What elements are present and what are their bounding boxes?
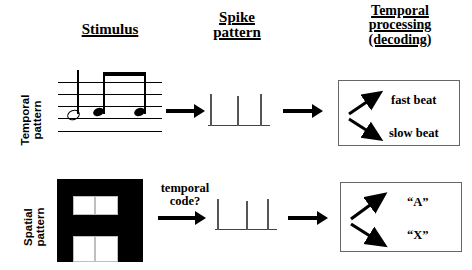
heading-temporal-line-3: (decoding) [330, 33, 470, 47]
caption-temporal-code-line-2: code? [148, 195, 222, 208]
spike-1 [210, 94, 212, 126]
heading-temporal-processing: Temporal processing (decoding) [330, 4, 470, 47]
branch-arrow-up-icon [351, 197, 381, 219]
branch-arrow-down-icon [351, 224, 381, 243]
arrow-head-icon [317, 211, 328, 225]
arrow-shaft [288, 216, 319, 220]
spatial-cell-bottom-left [73, 236, 95, 262]
arrow-head-icon [312, 104, 323, 118]
arrow-shaft [283, 109, 314, 113]
decoding-box-temporal: fast beat slow beat [338, 80, 460, 146]
eighth-note-beam [103, 72, 146, 76]
spike-3 [260, 94, 262, 126]
arrow-stimulus-to-spike-bottom [158, 211, 208, 225]
spike-3 [267, 199, 269, 230]
eighth-note-1-head [92, 106, 105, 117]
spike-1 [217, 199, 219, 230]
heading-stimulus-line-1: Stimulus [40, 22, 180, 37]
caption-temporal-code: temporal code? [148, 182, 222, 208]
spatial-cell-top-left [73, 196, 95, 215]
staff-line-2 [58, 94, 162, 95]
staff-line-1 [58, 82, 162, 83]
decode-output-top-2: slow beat [389, 126, 439, 141]
arrow-head-icon [195, 211, 206, 225]
heading-spike-line-1: Spike [182, 10, 292, 25]
half-note-head [66, 108, 82, 122]
row-label-spatial-line-1: Spatial [22, 191, 34, 263]
heading-temporal-line-2: processing [330, 18, 470, 32]
eighth-note-2-head [133, 106, 146, 117]
half-note-stem [77, 70, 79, 114]
spike-train-bottom [215, 196, 277, 230]
row-label-spatial-line-2: pattern [34, 191, 46, 263]
row-label-spatial-pattern: Spatial pattern [22, 191, 46, 263]
row-label-temporal-line-2: pattern [31, 82, 43, 158]
decode-output-top-1: fast beat [391, 93, 436, 108]
spatial-cell-bottom-right [95, 236, 118, 262]
decoding-box-spatial: “A” “X” [340, 182, 462, 252]
spike-2 [246, 201, 248, 230]
branch-arrow-down-icon [349, 119, 377, 137]
heading-stimulus: Stimulus [40, 22, 180, 37]
row-label-temporal-line-1: Temporal [19, 82, 31, 158]
arrow-spike-to-processing-top [283, 104, 325, 118]
staff-line-5 [58, 131, 162, 132]
row-label-temporal-pattern: Temporal pattern [19, 82, 43, 158]
heading-temporal-line-1: Temporal [330, 4, 470, 18]
eighth-note-2-stem [144, 72, 146, 114]
decode-output-bottom-2: “X” [407, 228, 429, 243]
arrow-stimulus-to-spike-top [166, 104, 206, 118]
spike-2 [237, 96, 239, 126]
heading-spike-line-2: pattern [182, 25, 292, 40]
arrow-spike-to-processing-bottom [288, 211, 330, 225]
spatial-pattern-letter-block [57, 179, 143, 262]
decode-output-bottom-1: “A” [407, 195, 429, 210]
music-staff-notation [58, 74, 162, 136]
branch-arrow-up-icon [349, 95, 377, 114]
spike-train-top [208, 92, 270, 126]
heading-spike-pattern: Spike pattern [182, 10, 292, 41]
arrow-head-icon [194, 104, 205, 118]
staff-line-3 [58, 106, 162, 107]
branch-arrows-bottom [341, 183, 463, 253]
arrow-shaft [166, 109, 196, 113]
arrow-shaft [158, 216, 197, 220]
eighth-note-1-stem [103, 72, 105, 114]
spatial-cell-top-right [95, 196, 118, 215]
